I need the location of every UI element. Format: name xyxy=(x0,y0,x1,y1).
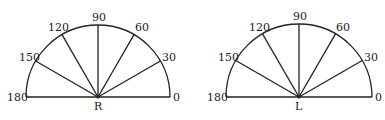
center-point xyxy=(297,95,300,98)
center-label: R xyxy=(94,100,103,113)
label-90: 90 xyxy=(293,10,307,23)
label-180: 180 xyxy=(7,91,28,104)
protractor-r: 0 30 60 90 120 150 180 R xyxy=(7,11,180,113)
label-0: 0 xyxy=(375,91,382,104)
ray-150 xyxy=(36,61,98,97)
ray-60 xyxy=(299,34,336,97)
label-150: 150 xyxy=(19,51,40,64)
ray-120 xyxy=(62,35,98,97)
label-60: 60 xyxy=(336,21,350,34)
label-120: 120 xyxy=(249,21,270,34)
center-label: L xyxy=(295,100,303,113)
ray-60 xyxy=(98,35,134,97)
label-90: 90 xyxy=(92,11,106,24)
label-180: 180 xyxy=(207,91,228,104)
label-0: 0 xyxy=(173,91,180,104)
ray-30 xyxy=(299,61,362,98)
ray-120 xyxy=(263,34,300,97)
label-150: 150 xyxy=(218,51,239,64)
label-60: 60 xyxy=(135,21,149,34)
ray-30 xyxy=(98,61,160,97)
protractor-l: 0 30 60 90 120 150 180 L xyxy=(207,10,382,113)
ray-150 xyxy=(236,61,299,98)
label-120: 120 xyxy=(48,21,69,34)
center-point xyxy=(96,95,99,98)
label-30: 30 xyxy=(162,51,176,64)
protractor-figure: 0 30 60 90 120 150 180 R 0 30 60 90 120 … xyxy=(0,0,385,120)
label-30: 30 xyxy=(364,51,378,64)
